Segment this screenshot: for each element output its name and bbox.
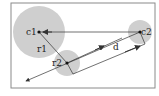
label-r2: r2 bbox=[52, 58, 62, 68]
collision-diagram: c1 r1 r2 c2 d bbox=[0, 0, 159, 96]
center-dot-r2 bbox=[65, 61, 68, 64]
center-dot-c1 bbox=[37, 30, 40, 33]
label-c1: c1 bbox=[26, 27, 37, 37]
label-d: d bbox=[113, 42, 119, 52]
label-c2: c2 bbox=[141, 27, 152, 37]
d-arrow-right bbox=[125, 46, 140, 52]
label-r1: r1 bbox=[37, 44, 47, 54]
